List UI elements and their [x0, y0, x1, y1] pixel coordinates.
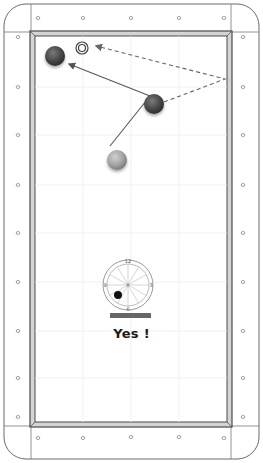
- spin-label-6: 6: [126, 306, 129, 312]
- table-canvas[interactable]: 12 3 6 9: [0, 0, 263, 463]
- spin-label-12: 12: [125, 258, 131, 264]
- result-text: Yes !: [0, 326, 263, 341]
- spin-point-dot[interactable]: [114, 291, 122, 299]
- red-ball-top-left[interactable]: [45, 46, 65, 66]
- power-bar[interactable]: [110, 313, 151, 318]
- spin-label-3: 3: [149, 282, 152, 288]
- red-ball-center[interactable]: [144, 94, 164, 114]
- target-marker-icon: [76, 42, 88, 54]
- cue-ball[interactable]: [107, 150, 127, 170]
- billiard-table[interactable]: 12 3 6 9 Yes !: [0, 0, 263, 463]
- spin-label-9: 9: [103, 282, 106, 288]
